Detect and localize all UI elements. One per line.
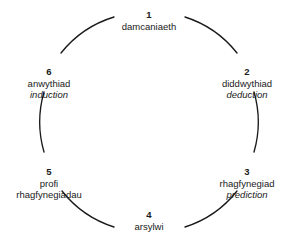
arc-1-to-2 [185, 17, 237, 53]
cycle-node-3-term: rhagfynegiad [220, 178, 275, 189]
diagram-canvas: 1 damcaniaeth 2 diddwythiad deduction 3 … [0, 0, 298, 246]
cycle-node-3: 3 rhagfynegiad prediction [220, 166, 275, 200]
cycle-node-2-term: diddwythiad [222, 78, 272, 89]
cycle-node-2-number: 2 [222, 66, 272, 77]
cycle-node-2: 2 diddwythiad deduction [222, 66, 272, 100]
arc-5-to-6 [40, 92, 44, 152]
cycle-node-4-term: arsylwi [134, 221, 163, 232]
cycle-node-5-term-2: rhagfynegiadau [16, 189, 82, 200]
cycle-node-4: 4 arsylwi [134, 209, 163, 232]
cycle-node-3-number: 3 [220, 166, 275, 177]
cycle-node-5: 5 profi rhagfynegiadau [16, 166, 82, 200]
cycle-node-3-gloss: prediction [220, 189, 275, 200]
cycle-node-5-number: 5 [16, 166, 82, 177]
cycle-node-4-number: 4 [134, 209, 163, 220]
cycle-node-6-term: anwythiad [28, 78, 71, 89]
arc-6-to-1 [61, 17, 114, 53]
cycle-node-2-gloss: deduction [222, 89, 272, 100]
cycle-node-6-gloss: induction [28, 89, 71, 100]
cycle-node-1-term: damcaniaeth [122, 21, 176, 32]
cycle-node-1: 1 damcaniaeth [122, 9, 176, 32]
arc-2-to-3 [254, 92, 258, 152]
cycle-node-5-term: profi [16, 178, 82, 189]
cycle-node-6: 6 anwythiad induction [28, 66, 71, 100]
cycle-node-1-number: 1 [122, 9, 176, 20]
cycle-node-6-number: 6 [28, 66, 71, 77]
